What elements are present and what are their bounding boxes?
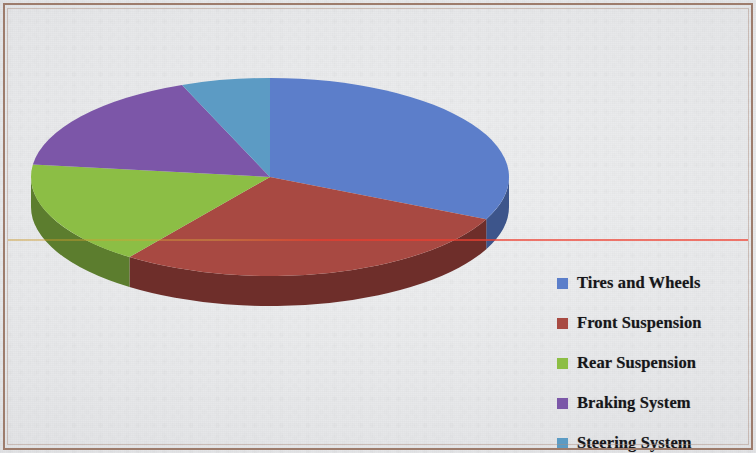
- legend-item-steering-system[interactable]: Steering System: [557, 433, 702, 453]
- legend-item-rear-suspension[interactable]: Rear Suspension: [557, 353, 702, 373]
- legend-item-label: Rear Suspension: [577, 353, 696, 373]
- legend-item-label: Tires and Wheels: [577, 273, 701, 293]
- scanned-chart-page: Tires and Wheels Front Suspension Rear S…: [0, 0, 756, 453]
- legend-swatch-icon: [557, 358, 568, 369]
- legend-item-tires-and-wheels[interactable]: Tires and Wheels: [557, 273, 702, 293]
- pie-top-slices: [31, 78, 509, 276]
- chart-legend: Tires and Wheels Front Suspension Rear S…: [557, 273, 702, 453]
- legend-swatch-icon: [557, 438, 568, 449]
- legend-swatch-icon: [557, 398, 568, 409]
- legend-item-label: Braking System: [577, 393, 691, 413]
- legend-item-label: Front Suspension: [577, 313, 702, 333]
- legend-item-label: Steering System: [577, 433, 692, 453]
- legend-swatch-icon: [557, 278, 568, 289]
- legend-item-braking-system[interactable]: Braking System: [557, 393, 702, 413]
- legend-item-front-suspension[interactable]: Front Suspension: [557, 313, 702, 333]
- legend-swatch-icon: [557, 318, 568, 329]
